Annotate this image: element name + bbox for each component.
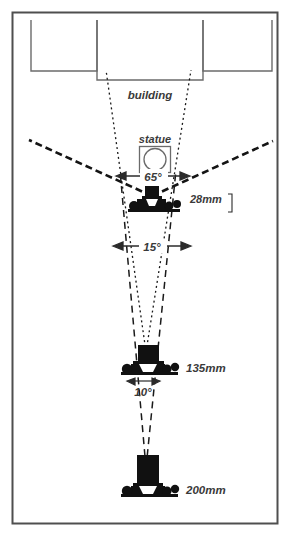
statue-circle bbox=[144, 149, 166, 171]
camera-200mm-base-plate bbox=[121, 494, 178, 497]
camera-135mm-base-plate bbox=[121, 372, 178, 375]
lens-angle-diagram-svg: building statue 65° bbox=[0, 0, 292, 538]
angle-15-label: 15° bbox=[143, 241, 161, 253]
camera-28mm-shutter-knob bbox=[173, 200, 181, 208]
lens-135mm-label: 135mm bbox=[186, 362, 226, 374]
lens-28mm-label: 28mm bbox=[189, 193, 222, 205]
camera-28mm-base-plate bbox=[128, 209, 180, 212]
angle-10-label: 10° bbox=[134, 386, 152, 398]
statue-label: statue bbox=[139, 133, 171, 145]
camera-135mm-lens-barrel bbox=[138, 345, 159, 362]
angle-65-label: 65° bbox=[144, 171, 162, 183]
building-label: building bbox=[128, 89, 173, 101]
diagram-canvas: building statue 65° bbox=[0, 0, 292, 538]
camera-200mm-lens-barrel bbox=[137, 455, 159, 485]
camera-135mm-shutter-knob bbox=[171, 363, 179, 371]
statue-symbol bbox=[140, 147, 171, 173]
camera-200mm-shutter-knob bbox=[171, 485, 179, 493]
lens-200mm-label: 200mm bbox=[185, 484, 226, 496]
